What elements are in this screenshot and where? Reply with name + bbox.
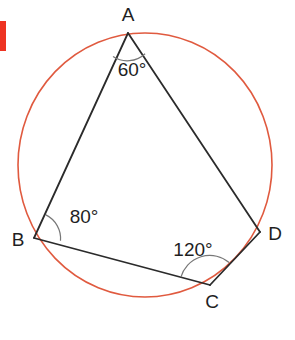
vertex-label-C: C	[205, 291, 219, 312]
angle-arc-B	[46, 215, 61, 241]
angle-label-C: 120°	[173, 239, 212, 260]
segment-AD	[128, 33, 260, 232]
angle-label-A: 60°	[118, 59, 147, 80]
vertex-label-B: B	[12, 229, 25, 250]
angle-label-B: 80°	[70, 206, 99, 227]
geometry-diagram-container: 60° 80° 120° A B C D	[0, 0, 295, 340]
vertex-label-D: D	[268, 223, 282, 244]
segment-CD	[210, 232, 260, 285]
vertex-label-A: A	[122, 4, 135, 25]
left-edge-red-marker	[0, 21, 6, 51]
geometry-canvas: 60° 80° 120° A B C D	[0, 0, 295, 340]
